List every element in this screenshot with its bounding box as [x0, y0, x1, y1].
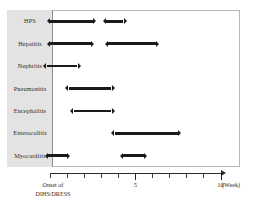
x-tick-2 [84, 173, 85, 178]
bar-pneumonitis-1 [69, 87, 112, 90]
bar-hps-2 [106, 20, 123, 23]
timeline-chart-figure: HPS Hepatitis Nephritis Pneumonitis Ence… [0, 0, 258, 204]
bar-enterocolitis-1 [115, 132, 178, 135]
bar-hepatitis-1 [50, 42, 91, 45]
axis-origin-label-line1: Onset of [43, 182, 64, 188]
x-tick-7 [169, 173, 170, 178]
bar-myocarditis-2 [123, 154, 143, 157]
x-tick-4 [118, 173, 119, 178]
x-tick-label-5: 5 [127, 181, 143, 188]
x-tick-6 [152, 173, 153, 178]
bar-myocarditis-1 [48, 154, 67, 157]
x-tick-9 [203, 173, 204, 178]
bar-encephalitis-1 [74, 110, 112, 113]
x-tick-3 [101, 173, 102, 178]
x-tick-10 [221, 173, 222, 180]
bar-hps-1 [50, 20, 93, 23]
bar-nephritis-1 [47, 65, 78, 68]
x-tick-5 [135, 173, 136, 180]
category-label-enterocolitis: Enterocolitis [7, 129, 53, 137]
category-label-encephalitis: Encephalitis [7, 107, 53, 115]
category-label-column: HPS Hepatitis Nephritis Pneumonitis Ence… [7, 10, 53, 167]
x-tick-8 [186, 173, 187, 178]
x-axis-arrowhead-icon [221, 170, 226, 176]
axis-origin-label-line2: DIHS/DRESS [36, 191, 71, 197]
bar-hepatitis-2 [108, 42, 156, 45]
axis-unit-label: (Week) [222, 181, 240, 188]
x-tick-0 [50, 173, 51, 178]
x-tick-1 [67, 173, 68, 178]
category-label-pneumonitis: Pneumonitis [7, 85, 53, 93]
axis-origin-label: Onset of DIHS/DRESS [24, 181, 82, 199]
